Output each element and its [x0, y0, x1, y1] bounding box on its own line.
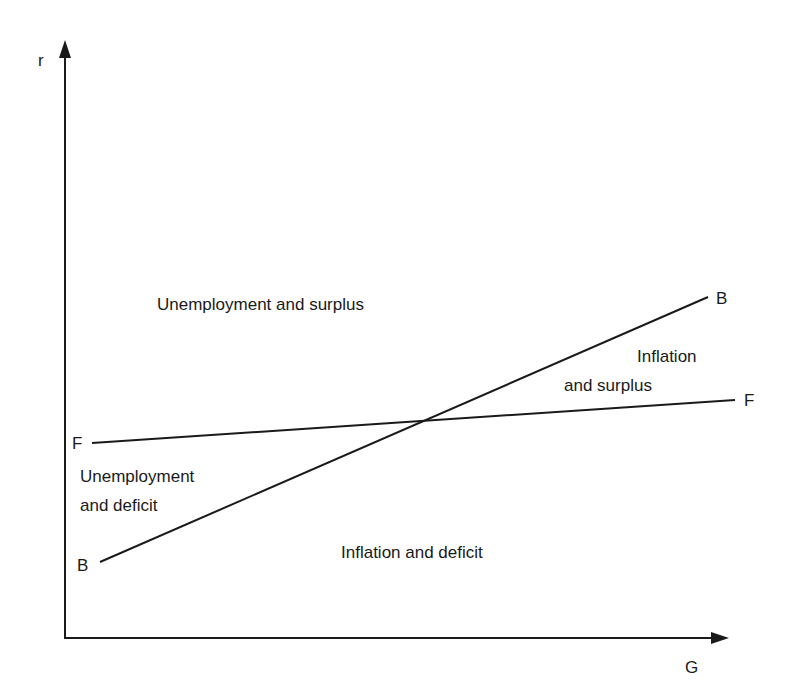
bb-end-label: B [716, 288, 727, 310]
region-inflation-surplus-line1: Inflation [637, 346, 697, 368]
ff-line [92, 400, 735, 443]
bb-start-label: B [77, 555, 88, 577]
region-unemployment-deficit-line2: and deficit [80, 495, 158, 517]
ff-end-label: F [744, 390, 754, 412]
ff-start-label: F [72, 433, 82, 455]
y-axis-label: r [38, 50, 44, 72]
x-axis-label: G [685, 657, 698, 679]
bb-line [100, 297, 708, 562]
region-inflation-surplus-line2: and surplus [564, 375, 652, 397]
region-unemployment-surplus: Unemployment and surplus [157, 294, 364, 316]
region-unemployment-deficit-line1: Unemployment [80, 466, 194, 488]
region-inflation-deficit: Inflation and deficit [341, 542, 483, 564]
x-axis-arrow-icon [711, 632, 729, 644]
y-axis-arrow-icon [59, 40, 71, 58]
